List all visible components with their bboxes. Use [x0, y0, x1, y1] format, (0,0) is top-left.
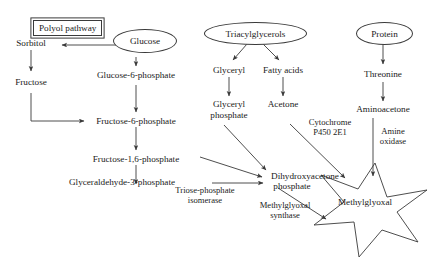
node-fructose-1-6-phosphate: Fructose-1,6-phosphate: [93, 155, 180, 165]
enzyme-cytochrome-line1: Cytochrome: [309, 118, 351, 127]
arrow-f16p-to-dhap: [200, 157, 262, 177]
node-fatty-acids: Fatty acids: [263, 66, 303, 76]
enzyme-amine-oxidase-line1: Amine: [381, 127, 404, 136]
node-glyceryl-phosphate-line1: Glyceryl: [213, 100, 245, 110]
arrow-tag-to-fatty-acids: [263, 44, 279, 60]
node-protein-label: Protein: [371, 29, 398, 39]
enzyme-amine-oxidase-line2: oxidase: [380, 137, 406, 146]
arrow-fructose-to-f6p: [31, 93, 84, 121]
arrow-tag-to-glyceryl: [233, 44, 247, 60]
enzyme-cytochrome-line2: P450 2E1: [313, 128, 347, 137]
node-aminoacetone: Aminoacetone: [356, 105, 410, 115]
node-glucose[interactable]: Glucose: [113, 29, 177, 53]
enzyme-methylglyoxal-synthase-line2: synthase: [270, 211, 300, 220]
node-methylglyoxal: Methylglyoxal: [338, 198, 392, 208]
node-glyceraldehyde-3-phosphate: Glyceraldehyde-3-phosphate: [69, 178, 175, 188]
node-threonine: Threonine: [364, 70, 402, 80]
enzyme-triose-phosphate-isomerase-line2: isomerase: [188, 196, 222, 205]
enzyme-methylglyoxal-synthase-line1: Methylglyoxal: [260, 201, 311, 210]
node-glucose-label: Glucose: [130, 36, 160, 46]
node-dihydroxyacetone-phosphate-line2: phosphate: [273, 182, 310, 192]
pathway-diagram: Glucose Triacylglycerols Protein Polyol …: [0, 0, 444, 265]
node-triacylglycerols[interactable]: Triacylglycerols: [204, 22, 307, 45]
node-glyceryl: Glyceryl: [213, 66, 245, 76]
enzyme-triose-phosphate-isomerase-line1: Triose-phosphate: [175, 186, 234, 195]
node-sorbitol: Sorbitol: [16, 39, 46, 49]
node-acetone: Acetone: [268, 100, 299, 110]
arrow-glyceryl-phosphate-to-dhap: [224, 125, 266, 170]
node-triacylglycerols-label: Triacylglycerols: [226, 29, 286, 39]
node-glucose-6-phosphate: Glucose-6-phosphate: [97, 71, 175, 81]
node-fructose-6-phosphate: Fructose-6-phosphate: [96, 117, 176, 127]
label-polyol-pathway: Polyol pathway: [33, 20, 102, 36]
node-glyceryl-phosphate-line2: phosphate: [210, 111, 247, 121]
node-fructose: Fructose: [15, 78, 47, 88]
node-protein[interactable]: Protein: [356, 22, 413, 45]
